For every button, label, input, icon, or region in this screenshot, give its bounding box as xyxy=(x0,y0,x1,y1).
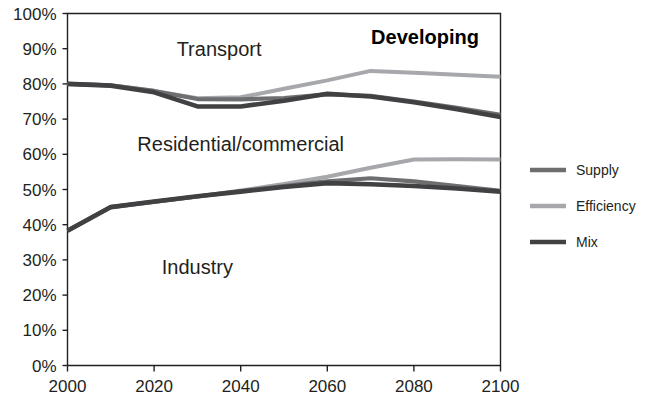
y-tick-label: 70% xyxy=(22,110,56,129)
y-tick-label: 0% xyxy=(32,357,57,376)
legend-item-efficiency[interactable]: Efficiency xyxy=(530,198,636,214)
x-tick-label: 2060 xyxy=(308,377,346,396)
y-tick-label: 50% xyxy=(22,181,56,200)
y-tick-label: 40% xyxy=(22,216,56,235)
chart-title: Developing xyxy=(371,26,479,48)
x-tick-label: 2000 xyxy=(49,377,87,396)
x-tick-label: 2080 xyxy=(395,377,433,396)
y-tick-label: 20% xyxy=(22,286,56,305)
y-tick-label: 90% xyxy=(22,40,56,59)
y-tick-label: 80% xyxy=(22,75,56,94)
region-label-transport: Transport xyxy=(177,38,262,60)
legend-item-mix[interactable]: Mix xyxy=(530,234,598,250)
y-tick-label: 10% xyxy=(22,321,56,340)
x-axis-tick-labels: 200020202040206020802100 xyxy=(49,377,520,396)
line-chart-canvas: 0%10%20%30%40%50%60%70%80%90%100% 200020… xyxy=(0,0,661,402)
region-label-residential-commercial: Residential/commercial xyxy=(137,133,344,155)
y-axis-tick-marks xyxy=(63,14,68,366)
x-tick-label: 2020 xyxy=(135,377,173,396)
series-line-mix-lower xyxy=(68,183,501,231)
chart-legend[interactable]: SupplyEfficiencyMix xyxy=(530,162,636,250)
series-line-efficiency-lower xyxy=(68,159,501,230)
legend-item-supply[interactable]: Supply xyxy=(530,162,619,178)
region-label-industry: Industry xyxy=(162,256,233,278)
chart-figure: 0%10%20%30%40%50%60%70%80%90%100% 200020… xyxy=(0,0,661,402)
x-axis-tick-marks xyxy=(68,366,501,372)
x-tick-label: 2040 xyxy=(222,377,260,396)
y-tick-label: 30% xyxy=(22,251,56,270)
legend-label-mix: Mix xyxy=(576,234,598,250)
legend-label-supply: Supply xyxy=(576,162,619,178)
y-tick-label: 60% xyxy=(22,145,56,164)
y-axis-tick-labels: 0%10%20%30%40%50%60%70%80%90%100% xyxy=(13,5,56,376)
legend-label-efficiency: Efficiency xyxy=(576,198,636,214)
y-tick-label: 100% xyxy=(13,5,56,24)
series-line-efficiency-upper xyxy=(68,71,501,98)
x-tick-label: 2100 xyxy=(482,377,520,396)
region-annotations: TransportResidential/commercialIndustry xyxy=(137,38,344,278)
